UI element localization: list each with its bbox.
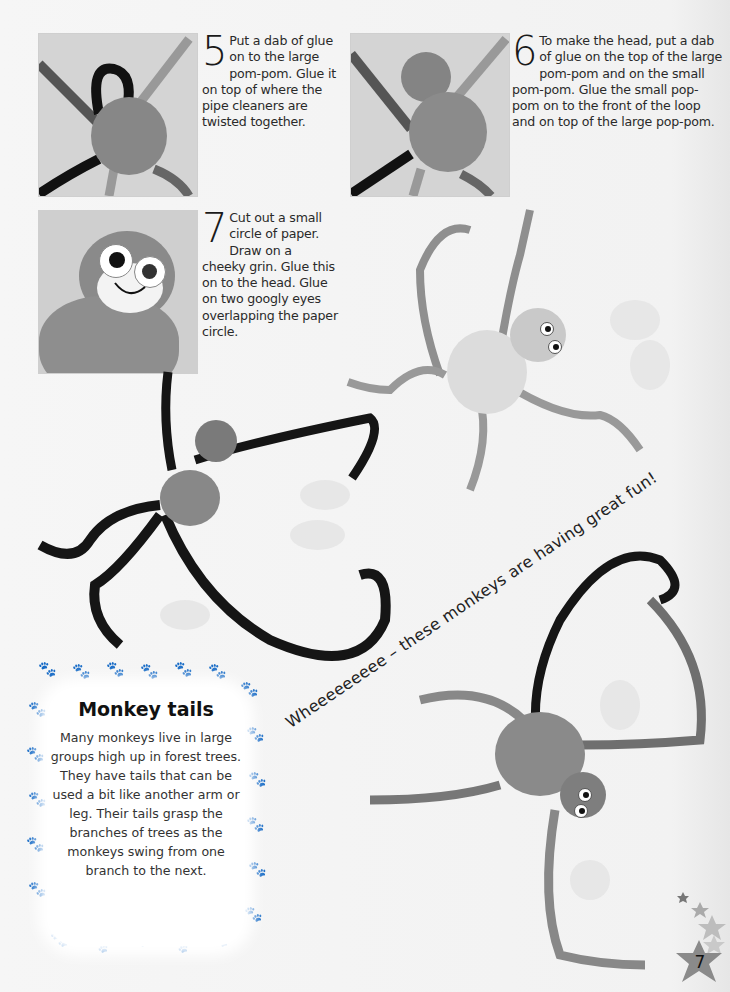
book-page: 5 Put a dab of glue on to the large pom-… (0, 0, 730, 992)
googly-eye (578, 788, 592, 802)
star-icon (691, 902, 709, 918)
paw-print-icon: 🐾 (208, 662, 227, 680)
paw-print-icon: 🐾 (246, 815, 265, 833)
googly-eye (540, 322, 554, 336)
page-number: 7 (690, 952, 710, 972)
paw-print-icon: 🐾 (248, 860, 267, 878)
googly-eye (548, 340, 562, 354)
paw-print-icon: 🐾 (246, 725, 265, 743)
paw-print-icon: 🐾 (26, 835, 45, 853)
paw-print-icon: 🐾 (140, 662, 159, 680)
paw-print-icon: 🐾 (28, 700, 47, 718)
paw-print-icon: 🐾 (72, 662, 91, 680)
star-icon (677, 892, 689, 903)
paw-print-icon: 🐾 (26, 745, 45, 763)
black-monkey-body (160, 470, 220, 526)
grey-monkey-head (510, 308, 566, 362)
paw-print-icon: 🐾 (106, 660, 125, 678)
googly-eye (574, 804, 588, 818)
info-box-title: Monkey tails (48, 688, 244, 720)
info-box: Monkey tails Many monkeys live in large … (48, 688, 244, 946)
paw-print-icon: 🐾 (244, 905, 263, 923)
info-box-body: Many monkeys live in large groups high u… (48, 728, 244, 880)
paw-print-icon: 🐾 (248, 770, 267, 788)
paw-print-icon: 🐾 (28, 790, 47, 808)
paw-print-icon: 🐾 (174, 660, 193, 678)
paw-print-icon: 🐾 (38, 660, 57, 678)
paw-print-icon: 🐾 (28, 880, 47, 898)
black-monkey-head (195, 420, 237, 462)
star-icon (698, 915, 726, 940)
